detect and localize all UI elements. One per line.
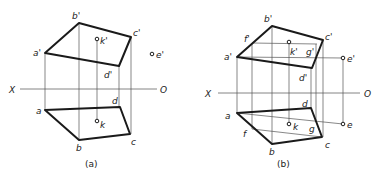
label-c: c bbox=[131, 137, 136, 147]
aux-line-a-prime-e-prime bbox=[237, 57, 343, 58]
axis-label-x: X bbox=[8, 85, 16, 95]
point-e-prime bbox=[150, 52, 154, 56]
figure-b: X O b' c' f' a' k' bbox=[204, 14, 371, 169]
label-k: k bbox=[100, 120, 106, 130]
label-b: b bbox=[76, 143, 82, 153]
orthographic-projection-diagram: X O b' c' a' d' k' e' a d k c b (a) bbox=[0, 0, 381, 179]
label-e-prime: e' bbox=[347, 54, 355, 64]
label-a: a bbox=[225, 111, 231, 121]
label-d: d bbox=[302, 99, 308, 109]
point-e bbox=[341, 122, 345, 126]
label-g: g bbox=[309, 124, 315, 134]
label-b-prime: b' bbox=[72, 11, 80, 21]
point-k-prime bbox=[287, 40, 291, 44]
label-d-prime: d' bbox=[299, 73, 307, 83]
point-k-prime bbox=[95, 37, 99, 41]
label-k-prime: k' bbox=[290, 47, 298, 57]
label-g-prime: g' bbox=[306, 47, 314, 57]
point-k bbox=[287, 122, 291, 126]
label-c-prime: c' bbox=[325, 32, 332, 42]
label-f-prime: f' bbox=[244, 34, 250, 44]
caption-b: (b) bbox=[277, 159, 290, 169]
label-c: c bbox=[325, 140, 330, 150]
front-view-plane bbox=[45, 23, 131, 66]
label-c-prime: c' bbox=[133, 28, 140, 38]
aux-line-f-prime-g-prime bbox=[252, 43, 317, 44]
label-e: e bbox=[347, 120, 353, 130]
label-k-prime: k' bbox=[100, 36, 108, 46]
axis-label-o: O bbox=[160, 85, 167, 95]
label-a-prime: a' bbox=[33, 48, 41, 58]
label-a-prime: a' bbox=[224, 52, 232, 62]
label-e-prime: e' bbox=[156, 50, 164, 60]
top-view-plane bbox=[45, 107, 130, 140]
label-k: k bbox=[293, 122, 299, 132]
point-e-prime bbox=[341, 56, 345, 60]
caption-a: (a) bbox=[85, 159, 98, 169]
label-f: f bbox=[243, 129, 248, 139]
axis-label-x: X bbox=[204, 89, 212, 99]
label-d-prime: d' bbox=[104, 70, 112, 80]
label-b: b bbox=[269, 147, 275, 157]
label-b-prime: b' bbox=[264, 14, 272, 24]
label-d: d bbox=[112, 96, 118, 106]
point-k bbox=[95, 119, 99, 123]
axis-label-o: O bbox=[364, 89, 371, 99]
figure-a: X O b' c' a' d' k' e' a d k c b (a) bbox=[8, 11, 167, 169]
label-a: a bbox=[36, 106, 42, 116]
